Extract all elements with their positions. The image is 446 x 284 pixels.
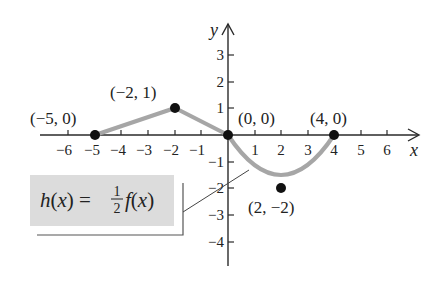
point-4-0	[329, 130, 339, 140]
label-2-m2: (2, −2)	[248, 198, 294, 217]
xtick-m6: −6	[56, 142, 72, 158]
graph-canvas: −6 −5 −4 −3 −2 −1 1 2 3 4 5 6 3 2 1 −1 −…	[0, 0, 446, 284]
ytick-p3: 3	[217, 47, 225, 63]
point-m2-1	[170, 103, 180, 113]
label-m2-1: (−2, 1)	[110, 83, 156, 102]
point-2-m2	[276, 183, 286, 193]
xtick-p4: 4	[330, 142, 338, 158]
frac-num: 1	[114, 184, 121, 199]
xtick-m2: −2	[163, 142, 179, 158]
xtick-p3: 3	[304, 142, 312, 158]
xtick-m4: −4	[110, 142, 126, 158]
xtick-m3: −3	[136, 142, 152, 158]
label-4-0: (4, 0)	[310, 109, 347, 128]
ytick-m4: −4	[208, 234, 224, 250]
ytick-m1: −1	[208, 154, 224, 170]
ytick-p1: 1	[217, 100, 225, 116]
xtick-p2: 2	[277, 142, 285, 158]
frac-den: 2	[114, 201, 121, 216]
y-axis-label: y	[208, 20, 218, 40]
svg-text:f(x): f(x)	[125, 188, 154, 212]
label-m5-0: (−5, 0)	[30, 109, 76, 128]
xtick-m1: −1	[189, 142, 205, 158]
y-ticks	[228, 55, 234, 242]
x-axis-label: x	[409, 140, 418, 160]
ytick-p2: 2	[217, 74, 225, 90]
label-0-0: (0, 0)	[238, 109, 275, 128]
svg-text:h(x) =: h(x) =	[40, 188, 91, 212]
point-m5-0	[90, 130, 100, 140]
xtick-p5: 5	[357, 142, 365, 158]
xtick-p6: 6	[383, 142, 391, 158]
xtick-m5: −5	[84, 142, 100, 158]
xtick-p1: 1	[251, 142, 259, 158]
ytick-m3: −3	[208, 207, 224, 223]
point-0-0	[223, 130, 233, 140]
leader-line	[183, 170, 249, 212]
